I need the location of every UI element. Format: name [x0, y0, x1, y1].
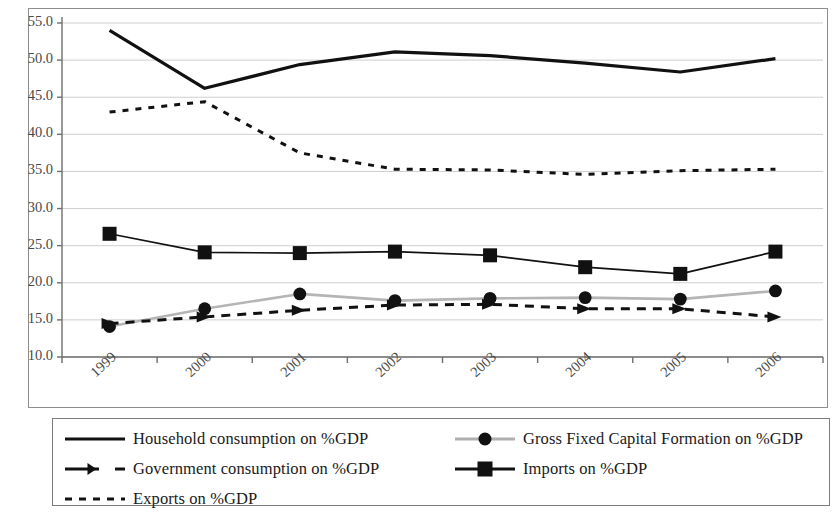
legend-item-gfcf: Gross Fixed Capital Formation on %GDP	[453, 426, 803, 452]
data-point-triangle	[577, 303, 591, 314]
chart-canvas	[29, 9, 827, 407]
legend-label-exports: Exports on %GDP	[133, 489, 257, 509]
data-point-circle	[674, 293, 687, 306]
chart-legend: Household consumption on %GDP Gross Fixe…	[52, 418, 830, 506]
data-point-square	[483, 248, 497, 262]
y-axis-tick-label: 10.0	[11, 347, 53, 364]
plot-area	[28, 8, 828, 408]
legend-item-household: Household consumption on %GDP	[63, 426, 368, 452]
data-point-square	[103, 227, 117, 241]
legend-label-household: Household consumption on %GDP	[133, 429, 368, 449]
y-axis-tick-label: 25.0	[11, 236, 53, 253]
data-point-square	[388, 245, 402, 259]
legend-label-government: Government consumption on %GDP	[133, 459, 379, 479]
y-axis-tick-label: 30.0	[11, 199, 53, 216]
circle-marker-icon	[479, 433, 492, 446]
data-point-triangle	[767, 311, 781, 322]
square-marker-icon	[478, 462, 493, 477]
y-axis-tick-label: 50.0	[11, 50, 53, 67]
series-dotted	[110, 102, 776, 175]
data-point-circle	[769, 285, 782, 298]
data-point-triangle	[292, 305, 306, 316]
legend-item-imports: Imports on %GDP	[453, 456, 647, 482]
series-line	[110, 102, 776, 175]
legend-key-government-line	[63, 459, 127, 479]
data-point-square	[673, 267, 687, 281]
y-axis-tick-label: 55.0	[11, 13, 53, 30]
data-point-square	[293, 246, 307, 260]
legend-key-imports-line	[453, 459, 517, 479]
legend-key-household-line	[63, 429, 127, 449]
triangle-marker-icon	[88, 463, 97, 475]
y-axis-tick-label: 20.0	[11, 273, 53, 290]
legend-key-gfcf-line	[453, 429, 517, 449]
data-point-circle	[579, 291, 592, 304]
legend-item-government: Government consumption on %GDP	[63, 456, 379, 482]
data-point-square	[578, 260, 592, 274]
data-point-circle	[293, 288, 306, 301]
series-solid-thick	[110, 30, 776, 88]
data-point-square	[198, 245, 212, 259]
y-axis-tick-label: 40.0	[11, 124, 53, 141]
legend-key-exports-line	[63, 489, 127, 509]
y-axis-tick-label: 35.0	[11, 161, 53, 178]
data-point-square	[768, 245, 782, 259]
y-axis-tick-label: 45.0	[11, 87, 53, 104]
legend-label-imports: Imports on %GDP	[523, 459, 647, 479]
legend-item-exports: Exports on %GDP	[63, 486, 257, 512]
y-axis-tick-label: 15.0	[11, 310, 53, 327]
legend-label-gfcf: Gross Fixed Capital Formation on %GDP	[523, 429, 803, 449]
chart-figure: 10.015.020.025.030.035.040.045.050.055.0…	[0, 0, 835, 512]
series-line	[110, 30, 776, 88]
